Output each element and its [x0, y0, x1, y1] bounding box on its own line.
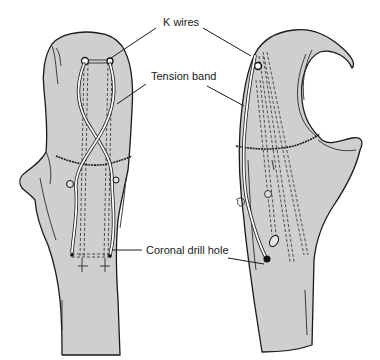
- tension-band-diagram: K wires Tension band Coronal drill hole: [0, 0, 380, 360]
- label-k-wires: K wires: [163, 16, 200, 28]
- left-knot-left: [67, 181, 74, 188]
- left-knot-right: [113, 177, 119, 183]
- label-coronal-drill-hole: Coronal drill hole: [146, 244, 229, 256]
- right-screw: [265, 191, 272, 198]
- right-bone-view: [236, 30, 362, 352]
- label-tension-band: Tension band: [151, 70, 216, 82]
- left-bone-view: [20, 32, 133, 355]
- leader-k-wires-right: [203, 28, 251, 56]
- right-k-wire-tip: [255, 63, 262, 70]
- right-bone-outline: [239, 30, 362, 352]
- right-coronal-drill-hole: [264, 256, 271, 263]
- leader-tension-band-right: [207, 86, 244, 106]
